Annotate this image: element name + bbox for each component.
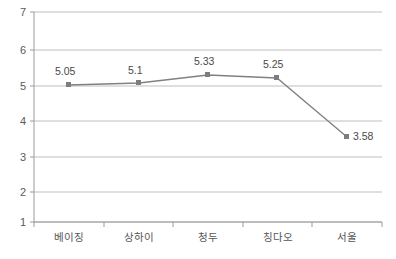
data-label-shanghai: 5.1 bbox=[128, 65, 143, 76]
x-axis bbox=[34, 222, 382, 227]
line-chart: 7 6 5 4 3 2 1 베이징 상하이 청두 칭다오 서울 5.05 5.1… bbox=[0, 0, 396, 259]
data-label-beijing: 5.05 bbox=[55, 66, 75, 77]
x-tick-label-chengdu: 청두 bbox=[178, 231, 238, 243]
y-tick-label: 6 bbox=[8, 45, 26, 56]
x-tick-label-beijing: 베이징 bbox=[39, 231, 99, 243]
series-line bbox=[69, 75, 347, 137]
x-tick-label-seoul: 서울 bbox=[317, 231, 377, 243]
y-tick-label: 7 bbox=[8, 7, 26, 18]
y-axis bbox=[30, 12, 34, 222]
y-tick-label: 2 bbox=[8, 187, 26, 198]
data-label-chengdu: 5.33 bbox=[194, 56, 214, 67]
gridlines bbox=[34, 12, 382, 222]
data-label-seoul: 3.58 bbox=[353, 131, 373, 142]
x-tick-label-shanghai: 상하이 bbox=[109, 231, 169, 243]
series-markers bbox=[66, 72, 349, 139]
x-tick-label-qingdao: 칭다오 bbox=[248, 231, 308, 243]
y-tick-label: 5 bbox=[8, 81, 26, 92]
y-tick-label: 4 bbox=[8, 116, 26, 127]
y-tick-label: 3 bbox=[8, 152, 26, 163]
data-label-qingdao: 5.25 bbox=[263, 59, 283, 70]
chart-canvas bbox=[0, 0, 396, 259]
y-tick-label: 1 bbox=[8, 217, 26, 228]
